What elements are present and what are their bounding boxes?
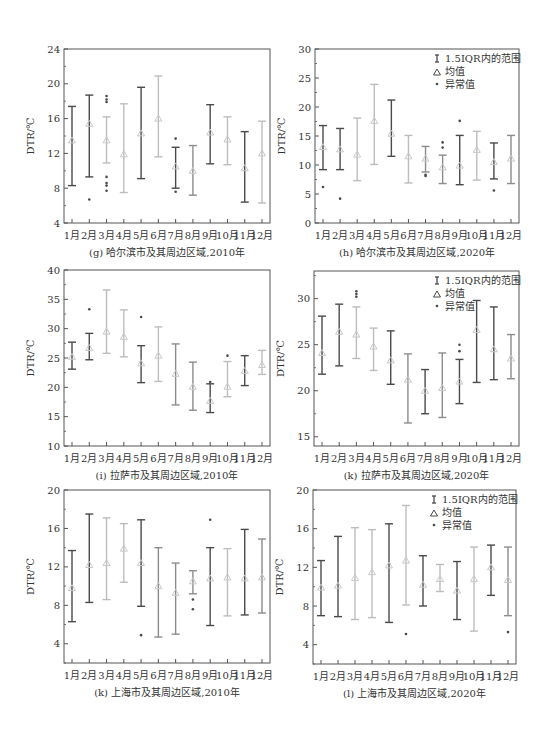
x-tick-label: 7月 xyxy=(417,230,433,241)
panel-title: (g) 哈尔滨市及其周边区域,2010年 xyxy=(89,246,245,258)
outlier-point xyxy=(192,598,195,601)
y-tick-label: 0 xyxy=(305,218,311,229)
outlier-point xyxy=(140,316,143,319)
error-bar xyxy=(189,362,197,410)
x-tick-label: 4月 xyxy=(116,670,132,681)
x-tick-label: 4月 xyxy=(116,230,132,241)
panel-title: (k) 上海市及其周边区域,2010年 xyxy=(94,686,240,698)
chart-panel-k-lhasa-2020: 15202530DTR/℃1月2月3月4月5月6月7月8月9月10月11月12月… xyxy=(275,271,522,481)
plot-frame xyxy=(64,49,270,223)
error-bar xyxy=(206,381,214,413)
x-tick-label: 6月 xyxy=(150,230,166,241)
mean-triangle-icon xyxy=(434,69,441,75)
y-tick-label: 16 xyxy=(296,523,309,534)
outlier-point xyxy=(88,198,91,201)
x-tick-label: 1月 xyxy=(64,230,80,241)
x-tick-label: 5月 xyxy=(133,453,149,464)
plot-frame xyxy=(64,490,270,663)
error-bar xyxy=(223,117,231,165)
x-tick-label: 6月 xyxy=(150,670,166,681)
x-tick-label: 2月 xyxy=(81,230,97,241)
outlier-point xyxy=(105,184,108,187)
outlier-point xyxy=(507,631,510,634)
x-tick-label: 5月 xyxy=(381,671,397,682)
outlier-dot-icon xyxy=(433,524,436,527)
y-tick-label: 16 xyxy=(47,523,60,534)
y-tick-label: 24 xyxy=(47,44,60,55)
y-tick-label: 8 xyxy=(303,601,309,612)
outlier-point xyxy=(441,141,444,144)
x-tick-label: 12月 xyxy=(251,670,274,681)
error-bar xyxy=(351,528,359,620)
x-tick-label: 3月 xyxy=(98,670,114,681)
legend-outlier-label: 异常值 xyxy=(442,519,472,531)
x-tick-label: 1月 xyxy=(64,670,80,681)
outlier-point xyxy=(355,290,358,293)
error-bar xyxy=(85,514,93,602)
legend-outlier-label: 异常值 xyxy=(445,300,475,312)
y-tick-label: 20 xyxy=(298,102,311,113)
x-tick-label: 4月 xyxy=(116,453,132,464)
x-tick-label: 12月 xyxy=(500,453,523,464)
x-tick-label: 7月 xyxy=(415,671,431,682)
outlier-point xyxy=(424,175,427,178)
error-bar xyxy=(241,132,249,202)
error-bar xyxy=(154,76,162,157)
x-tick-label: 6月 xyxy=(400,453,416,464)
outlier-point xyxy=(105,98,108,101)
y-tick-label: 4 xyxy=(54,638,60,649)
error-bar xyxy=(120,524,128,583)
error-bar xyxy=(154,548,162,637)
mean-triangle-icon xyxy=(431,510,438,516)
error-bar xyxy=(470,547,478,631)
error-bar xyxy=(317,561,325,616)
x-tick-label: 1月 xyxy=(64,453,80,464)
outlier-point xyxy=(226,354,229,357)
y-tick-label: 15 xyxy=(298,131,311,142)
x-tick-label: 4月 xyxy=(365,453,381,464)
legend-mean-label: 均值 xyxy=(445,287,465,299)
error-bar xyxy=(473,131,481,180)
x-tick-label: 12月 xyxy=(497,671,520,682)
panel-title: (i) 拉萨市及其周边区域,2010年 xyxy=(96,469,239,481)
x-tick-label: 7月 xyxy=(167,453,183,464)
y-axis-label: DTR/℃ xyxy=(25,118,36,155)
y-axis-label: DTR/℃ xyxy=(276,118,287,155)
outlier-point xyxy=(192,608,195,611)
x-tick-label: 7月 xyxy=(417,453,433,464)
x-tick-label: 5月 xyxy=(383,230,399,241)
error-bar xyxy=(137,520,145,637)
error-bar xyxy=(172,137,180,193)
outlier-point xyxy=(105,101,108,104)
outlier-point xyxy=(105,190,108,193)
outlier-point xyxy=(105,182,108,185)
x-tick-label: 2月 xyxy=(81,670,97,681)
x-tick-label: 4月 xyxy=(366,230,382,241)
y-tick-label: 12 xyxy=(296,562,309,573)
y-tick-label: 8 xyxy=(54,183,60,194)
outlier-point xyxy=(458,350,461,353)
x-tick-label: 4月 xyxy=(364,671,380,682)
error-bar xyxy=(137,316,145,383)
error-bar xyxy=(504,547,512,633)
x-tick-label: 1月 xyxy=(314,453,330,464)
error-bar xyxy=(438,353,446,417)
outlier-dot-icon xyxy=(436,305,439,308)
y-axis-label: DTR/℃ xyxy=(275,340,286,377)
outlier-point xyxy=(355,295,358,298)
x-tick-label: 3月 xyxy=(347,671,363,682)
y-tick-label: 20 xyxy=(297,385,310,396)
y-tick-label: 4 xyxy=(303,639,309,650)
outlier-point xyxy=(174,137,177,140)
legend-range-label: 1.5IQR内的范围 xyxy=(442,493,518,505)
y-tick-label: 20 xyxy=(47,485,60,496)
panel-title: (k) 拉萨市及其周边区域,2020年 xyxy=(344,469,490,481)
error-bar xyxy=(507,335,515,379)
mean-triangle-icon xyxy=(434,291,441,297)
outlier-point xyxy=(441,146,444,149)
y-tick-label: 20 xyxy=(47,78,60,89)
error-bar xyxy=(456,120,464,185)
y-tick-label: 12 xyxy=(47,148,60,159)
error-bar xyxy=(422,146,430,177)
error-bar xyxy=(352,290,360,359)
